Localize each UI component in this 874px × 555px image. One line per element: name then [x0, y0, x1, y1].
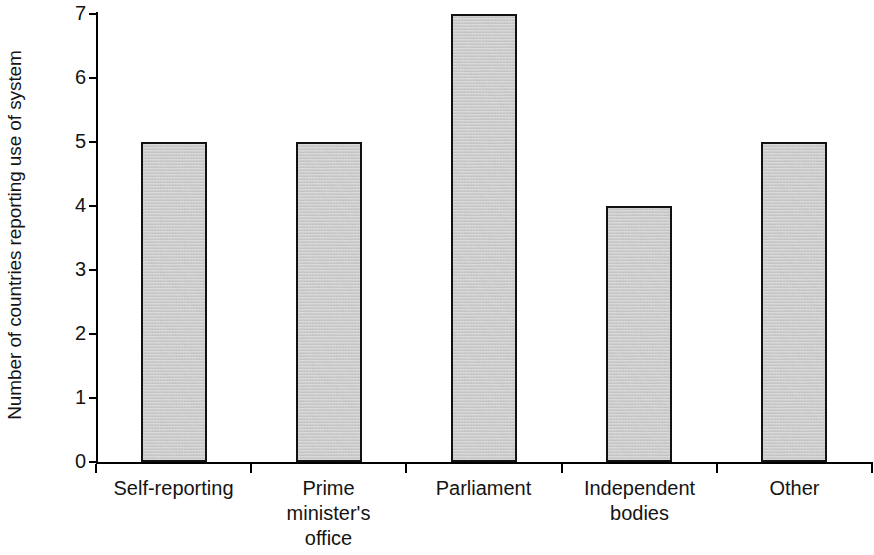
- y-tick-label-wrap: 3: [44, 259, 86, 279]
- y-tick-label: 7: [52, 3, 86, 23]
- x-axis-category-label-line: office: [251, 526, 406, 551]
- x-tick-mark: [250, 464, 252, 473]
- y-tick-label: 4: [52, 195, 86, 215]
- x-axis-category-label: Independentbodies: [562, 476, 717, 526]
- y-tick-mark: [89, 397, 97, 399]
- x-tick-mark: [405, 464, 407, 473]
- x-axis-category-label-line: bodies: [562, 501, 717, 526]
- bar: [141, 142, 207, 462]
- x-axis-category-label-line: Independent: [562, 476, 717, 501]
- x-axis-category-label: Self-reporting: [96, 476, 251, 501]
- y-tick-mark: [89, 333, 97, 335]
- bar: [451, 14, 517, 462]
- y-tick-label-wrap: 0: [44, 451, 86, 471]
- y-tick-label: 2: [52, 323, 86, 343]
- x-tick-mark: [871, 464, 873, 473]
- y-tick-label-wrap: 6: [44, 67, 86, 87]
- y-tick-label: 5: [52, 131, 86, 151]
- x-axis-category-label-line: Other: [717, 476, 872, 501]
- x-axis-category-label: Other: [717, 476, 872, 501]
- bar: [761, 142, 827, 462]
- y-tick-label-wrap: 7: [44, 3, 86, 23]
- x-axis-category-label-line: minister's: [251, 501, 406, 526]
- bar: [606, 206, 672, 462]
- y-tick-label-wrap: 5: [44, 131, 86, 151]
- y-axis-title: Number of countries reporting use of sys…: [0, 0, 30, 470]
- x-tick-mark: [95, 464, 97, 473]
- x-axis-line: [96, 462, 873, 464]
- y-tick-mark: [89, 77, 97, 79]
- y-tick-mark: [89, 269, 97, 271]
- y-tick-mark: [89, 205, 97, 207]
- y-tick-label: 1: [52, 387, 86, 407]
- y-tick-label: 3: [52, 259, 86, 279]
- y-tick-label-wrap: 4: [44, 195, 86, 215]
- x-axis-category-label-line: Self-reporting: [96, 476, 251, 501]
- y-tick-mark: [89, 141, 97, 143]
- x-tick-mark: [716, 464, 718, 473]
- y-tick-label-wrap: 1: [44, 387, 86, 407]
- x-axis-category-label-line: Parliament: [406, 476, 561, 501]
- y-axis-title-text: Number of countries reporting use of sys…: [4, 50, 26, 420]
- bar-chart: Number of countries reporting use of sys…: [0, 0, 874, 555]
- x-axis-category-label: Primeminister'soffice: [251, 476, 406, 551]
- y-tick-label: 0: [52, 451, 86, 471]
- y-tick-label-wrap: 2: [44, 323, 86, 343]
- bar: [296, 142, 362, 462]
- x-tick-mark: [561, 464, 563, 473]
- y-tick-mark: [89, 13, 97, 15]
- x-axis-category-label: Parliament: [406, 476, 561, 501]
- y-tick-mark: [89, 461, 97, 463]
- x-axis-category-label-line: Prime: [251, 476, 406, 501]
- y-tick-label: 6: [52, 67, 86, 87]
